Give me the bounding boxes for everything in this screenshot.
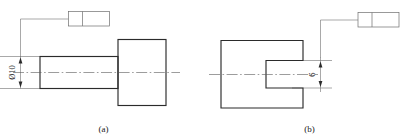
figure-b: 6 (b) bbox=[206, 0, 413, 140]
arrowhead-top-b bbox=[319, 62, 323, 68]
feature-control-frame-b[interactable] bbox=[358, 13, 399, 28]
leader-line-b bbox=[321, 20, 359, 58]
arrowhead-bottom-b bbox=[319, 81, 323, 87]
dimension-line-b bbox=[319, 57, 323, 92]
arrowhead-bottom-a bbox=[19, 82, 23, 88]
feature-control-frame-a[interactable] bbox=[69, 12, 110, 27]
arrowhead-top-a bbox=[19, 58, 23, 64]
engineering-drawing-sheet: Ø10 (a) bbox=[0, 0, 413, 140]
figure-caption-a: (a) bbox=[0, 124, 207, 134]
figure-a: Ø10 (a) bbox=[0, 0, 207, 140]
leader-line-a bbox=[21, 19, 69, 57]
figure-caption-b: (b) bbox=[206, 124, 413, 134]
